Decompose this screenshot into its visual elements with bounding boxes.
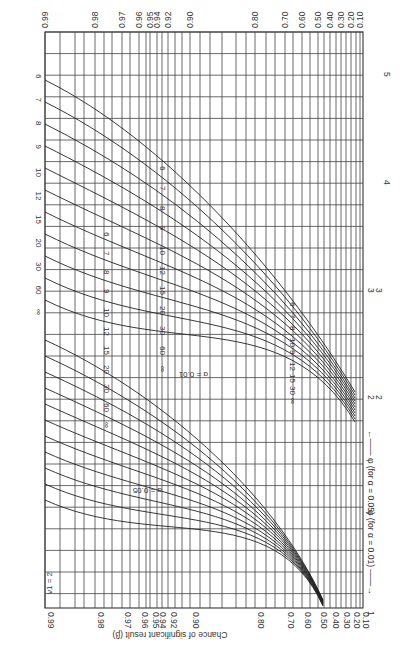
power-chart: 0.990.980.970.960.950.940.920.900.800.70…: [0, 0, 400, 664]
curve-nu2-label: 9: [158, 226, 167, 231]
power-tick-bottom: 0.40: [331, 612, 341, 629]
phi01-tick: 1: [366, 611, 376, 616]
curve-nu2-label: 12: [102, 327, 111, 336]
bottom-power-ticks: 0.990.980.970.960.950.940.920.900.800.70…: [46, 612, 371, 629]
alpha-05-label: α = 0.05: [132, 486, 162, 495]
power-tick-bottom: 0.60: [303, 612, 313, 629]
power-tick-top: 0.10: [355, 11, 365, 28]
power-tick-bottom: 0.94: [158, 612, 168, 629]
phi01-axis-title: φ (for α = 0.01) ——→: [366, 510, 376, 595]
curve-nu2-label: 8: [158, 206, 167, 211]
curve-nu2-label: 8: [34, 121, 43, 126]
alpha-01-label: α = 0.01: [178, 370, 208, 379]
phi-05-ticks: 5 4 3 2: [374, 72, 392, 400]
power-tick-top: 0.98: [90, 11, 100, 28]
curve-nu2-label: 9: [102, 289, 111, 294]
power-tick-bottom: 0.70: [286, 612, 296, 629]
power-tick-bottom: 0.96: [140, 612, 150, 629]
curve-nu2-label: 6: [102, 232, 111, 237]
curve-nu2-label: 20: [102, 365, 111, 374]
curve-nu2-label: 6: [288, 302, 297, 307]
curve-nu2-label: 7: [158, 186, 167, 191]
curve-nu2-label: 6: [158, 166, 167, 171]
curve-nu2-label: 20: [158, 306, 167, 315]
power-tick-top: 0.96: [134, 11, 144, 28]
curve-nu2-label: 30: [34, 262, 43, 271]
power-tick-top: 0.97: [117, 11, 127, 28]
phi05-tick: 4: [382, 180, 392, 185]
curve-nu2-label: 10: [102, 308, 111, 317]
curve-nu2-label: 8: [288, 326, 297, 331]
power-tick-bottom: 0.20: [352, 612, 362, 629]
nu1-label: ν1 = 2: [45, 571, 54, 594]
horizontal-gridlines: [45, 32, 363, 594]
curve-nu2-label: ∞: [288, 398, 297, 404]
curve-nu2-label: 10: [288, 338, 297, 347]
curve-nu2-label: 7: [288, 314, 297, 319]
phi01-tick: 3: [366, 288, 376, 293]
curve-nu2-label: 15: [102, 346, 111, 355]
power-tick-top: 0.40: [325, 11, 335, 28]
phi05-tick: 5: [382, 72, 392, 77]
curve-nu2-label: 7: [102, 251, 111, 256]
curve-nu2-label: 30: [102, 384, 111, 393]
curve-nu2-label: 9: [288, 350, 297, 355]
power-tick-top: 0.90: [185, 11, 195, 28]
power-tick-top: 0.50: [313, 11, 323, 28]
curve-nu2-label: 30: [158, 326, 167, 335]
power-tick-bottom: 0.80: [256, 612, 266, 629]
curve-nu2-label: ∞: [158, 366, 167, 372]
power-tick-bottom: 0.97: [123, 612, 133, 629]
power-tick-bottom: 0.92: [169, 612, 179, 629]
curve-nu2-label: 20: [34, 239, 43, 248]
power-tick-top: 0.60: [297, 11, 307, 28]
curve-nu2-label: ∞: [34, 309, 43, 315]
curve-nu2-label: 12: [34, 192, 43, 201]
curve-nu2-label: 60: [34, 286, 43, 295]
power-tick-bottom: 0.98: [96, 612, 106, 629]
power-tick-bottom: 0.90: [191, 612, 201, 629]
curve-nu2-label: 10: [34, 168, 43, 177]
phi05-axis-title: ←—— φ (for α = 0.05): [366, 430, 376, 515]
power-axis-title: Chance of significant result (β): [112, 630, 227, 640]
power-tick-top: 0.30: [336, 11, 346, 28]
curve-nu2-label: 30: [288, 386, 297, 395]
curve-nu2-label: 12: [158, 266, 167, 275]
curve-nu2-label: 10: [158, 246, 167, 255]
power-tick-top: 0.92: [163, 11, 173, 28]
power-tick-top: 0.94: [152, 11, 162, 28]
power-tick-top: 0.80: [250, 11, 260, 28]
curve-nu2-label: 6: [34, 74, 43, 79]
curve-nu2-label: 15: [288, 374, 297, 383]
curve-nu2-label: 9: [34, 145, 43, 150]
curve-nu2-label: 60: [158, 346, 167, 355]
curve-nu2-label: 12: [288, 362, 297, 371]
curve-labels: 6789101215203060∞6789101215203060∞678910…: [34, 74, 297, 428]
curve-nu2-label: 8: [102, 270, 111, 275]
top-power-ticks: 0.990.980.970.960.950.940.920.900.800.70…: [40, 11, 365, 28]
phi01-tick: 2: [366, 395, 376, 400]
curve-nu2-label: 7: [34, 98, 43, 103]
power-tick-top: 0.99: [40, 11, 50, 28]
curve-nu2-label: ∞: [102, 422, 111, 428]
curve-nu2-label: 60: [102, 403, 111, 412]
power-tick-bottom: 0.99: [46, 612, 56, 629]
power-tick-bottom: 0.50: [319, 612, 329, 629]
power-tick-bottom: 0.30: [342, 612, 352, 629]
curve-nu2-label: 15: [158, 286, 167, 295]
power-tick-top: 0.70: [280, 11, 290, 28]
curve-nu2-label: 15: [34, 215, 43, 224]
